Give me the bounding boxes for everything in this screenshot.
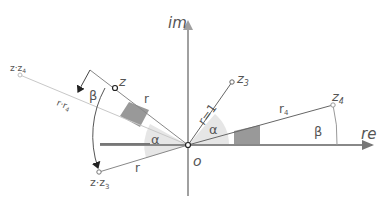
- label-r-times-r4: r·r4: [55, 98, 72, 114]
- label-z-times-z3: z·z3: [90, 176, 110, 191]
- line-origin-z-times-z3: [99, 145, 188, 172]
- complex-plane-diagram: im re o z z3 z4 z·z3 z·z4 r r r=1 r4 r·r…: [0, 0, 386, 208]
- label-r-upper-left: r: [144, 92, 149, 106]
- label-alpha-left: α: [151, 132, 160, 147]
- label-z3: z3: [236, 71, 249, 88]
- point-origin: [186, 143, 191, 148]
- label-beta-left: β: [89, 88, 97, 103]
- label-alpha-right: α: [209, 122, 218, 137]
- origin-label: o: [193, 153, 202, 169]
- imaginary-axis-label: im: [168, 14, 187, 32]
- label-beta-right: β: [314, 124, 322, 139]
- line-origin-z-times-z4: [20, 75, 188, 145]
- label-r4: r4: [279, 102, 289, 117]
- label-z-times-z4: z·z4: [10, 63, 26, 74]
- point-z: [113, 86, 118, 91]
- label-z: z: [118, 74, 127, 89]
- point-z-times-z3: [97, 170, 101, 174]
- real-axis-label: re: [361, 125, 376, 143]
- shaded-marker-right: [234, 125, 260, 145]
- line-origin-z: [90, 70, 188, 145]
- label-z4: z4: [331, 89, 344, 106]
- label-r-lower-left: r: [135, 161, 140, 175]
- point-z3: [230, 80, 234, 84]
- beta-arc-right: [333, 105, 337, 145]
